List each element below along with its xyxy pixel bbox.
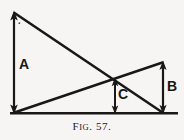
vector-label-b: B (167, 79, 177, 93)
descending-diagonal (15, 13, 163, 113)
ascending-diagonal (15, 63, 163, 113)
figure-caption: FIG. 57. (0, 120, 184, 134)
figure-container: A B C FIG. 57. (0, 0, 184, 140)
vector-label-a: A (19, 57, 29, 71)
caption-suffix: . 57. (89, 120, 111, 132)
artifact-tick (19, 22, 21, 24)
vector-label-c: C (118, 87, 128, 101)
caption-smallcaps: IG (79, 122, 89, 132)
vector-b (159, 61, 166, 115)
vector-a (10, 11, 18, 115)
